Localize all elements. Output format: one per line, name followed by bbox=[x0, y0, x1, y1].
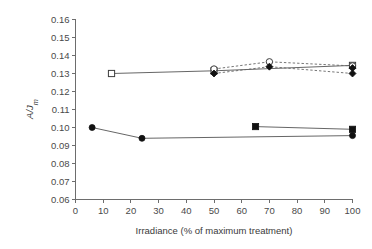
x-axis-title: Irradiance (% of maximum treatment) bbox=[136, 225, 293, 236]
y-axis-tick-label: 0.07 bbox=[51, 176, 70, 187]
y-axis-tick-label: 0.13 bbox=[51, 68, 70, 79]
y-axis-tick-label: 0.15 bbox=[51, 32, 70, 43]
x-axis-tick-label: 40 bbox=[181, 205, 192, 216]
y-axis-tick-label: 0.16 bbox=[51, 14, 70, 25]
x-axis-tick-label: 10 bbox=[98, 205, 109, 216]
data-point-filled-circle bbox=[89, 125, 95, 131]
x-axis-tick-label: 20 bbox=[126, 205, 137, 216]
x-axis-tick-label: 100 bbox=[345, 205, 361, 216]
x-axis-tick-label: 80 bbox=[292, 205, 303, 216]
x-axis-tick-label: 50 bbox=[209, 205, 220, 216]
y-axis-tick-label: 0.12 bbox=[51, 86, 70, 97]
x-axis-tick-label: 60 bbox=[236, 205, 247, 216]
y-axis-tick-label: 0.09 bbox=[51, 140, 70, 151]
chart-figure: 0.060.070.080.090.100.110.120.130.140.15… bbox=[0, 0, 372, 249]
y-axis-tick-label: 0.08 bbox=[51, 158, 70, 169]
x-axis-tick-label: 90 bbox=[320, 205, 331, 216]
chart-canvas: 0.060.070.080.090.100.110.120.130.140.15… bbox=[0, 0, 372, 249]
x-axis-tick-label: 30 bbox=[153, 205, 164, 216]
data-point-filled-circle bbox=[350, 133, 356, 139]
y-axis-tick-label: 0.11 bbox=[52, 104, 70, 115]
x-axis-tick-label: 70 bbox=[264, 205, 275, 216]
data-point-filled-circle bbox=[139, 135, 145, 141]
data-point-filled-square bbox=[349, 126, 355, 132]
y-axis-tick-label: 0.06 bbox=[51, 194, 70, 205]
x-axis-tick-label: 0 bbox=[73, 205, 78, 216]
data-point-open-square bbox=[108, 70, 114, 76]
y-axis-title-subscript: m bbox=[31, 99, 40, 105]
y-axis-tick-label: 0.10 bbox=[51, 122, 70, 133]
y-axis-tick-label: 0.14 bbox=[51, 50, 70, 61]
data-point-filled-square bbox=[252, 124, 258, 130]
y-axis-title-main: A/J bbox=[24, 105, 35, 120]
